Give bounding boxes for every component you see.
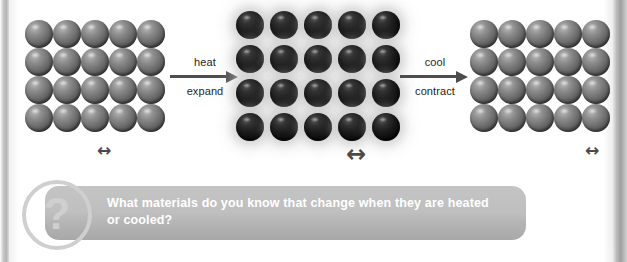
particle [25, 48, 53, 76]
particle [526, 104, 554, 132]
particle [236, 113, 264, 141]
particle [236, 45, 264, 73]
particle-diagram: ↔ heat expand ↔ cool contract ↔ [0, 0, 627, 176]
particle [554, 20, 582, 48]
particle [25, 104, 53, 132]
particle [137, 76, 165, 104]
particle-row [236, 45, 406, 79]
transition-cool-bottom-label: contract [398, 85, 472, 98]
particle [554, 48, 582, 76]
particle [25, 76, 53, 104]
transition-heat-top-label: heat [168, 56, 242, 69]
particle [498, 104, 526, 132]
particle [338, 11, 366, 39]
particle [304, 45, 332, 73]
particle [304, 113, 332, 141]
arrow-right-icon-cool [398, 71, 472, 83]
particle-row [470, 48, 610, 76]
particle-row [25, 104, 165, 132]
particle [270, 45, 298, 73]
question-mark-glyph: ? [26, 184, 88, 246]
particle [372, 11, 400, 39]
arrow-right-icon-heat [168, 71, 242, 83]
particle [270, 113, 298, 141]
particle [25, 20, 53, 48]
question-mark-icon: ? [22, 180, 92, 250]
particle [470, 76, 498, 104]
particle [338, 113, 366, 141]
particle-row [470, 104, 610, 132]
particle [526, 48, 554, 76]
particle-row [236, 79, 406, 113]
particle-row [25, 20, 165, 48]
particle-row [236, 11, 406, 45]
particle [304, 11, 332, 39]
particle [470, 48, 498, 76]
particle [582, 20, 610, 48]
particle [554, 76, 582, 104]
particle-row [470, 76, 610, 104]
particle-row [470, 20, 610, 48]
particle-row [25, 48, 165, 76]
particle [498, 20, 526, 48]
particle [498, 76, 526, 104]
particle [498, 48, 526, 76]
question-banner: What materials do you know that change w… [45, 186, 526, 240]
particle [137, 104, 165, 132]
particle [53, 76, 81, 104]
particle [554, 104, 582, 132]
particle [304, 79, 332, 107]
particle [109, 48, 137, 76]
particle [53, 104, 81, 132]
transition-cool: cool contract [398, 56, 472, 98]
particle [582, 104, 610, 132]
particle [582, 48, 610, 76]
particle [236, 11, 264, 39]
particle [81, 76, 109, 104]
particle [372, 113, 400, 141]
particle [470, 20, 498, 48]
particle [338, 79, 366, 107]
particle [526, 76, 554, 104]
particle [109, 76, 137, 104]
transition-heat-bottom-label: expand [168, 85, 242, 98]
question-banner-text: What materials do you know that change w… [107, 195, 497, 229]
transition-cool-top-label: cool [398, 56, 472, 69]
particle [270, 79, 298, 107]
particle [236, 79, 264, 107]
particle [372, 79, 400, 107]
particle-spacing-arrow-middle: ↔ [336, 142, 376, 166]
particle-spacing-arrow-left: ↔ [89, 142, 119, 159]
particle [470, 104, 498, 132]
particle [81, 104, 109, 132]
hot-particles-grid-middle [236, 11, 406, 147]
particle [526, 20, 554, 48]
particle [53, 20, 81, 48]
particle [270, 11, 298, 39]
particle [137, 20, 165, 48]
page-root: ↔ heat expand ↔ cool contract ↔ What mat… [0, 0, 627, 262]
particle [137, 48, 165, 76]
particle [81, 48, 109, 76]
particle [338, 45, 366, 73]
particle [372, 45, 400, 73]
particle-row [236, 113, 406, 147]
particle [582, 76, 610, 104]
particle-spacing-arrow-right: ↔ [577, 142, 607, 159]
particle [53, 48, 81, 76]
cool-particles-grid-left [25, 20, 165, 132]
particle [81, 20, 109, 48]
particle [109, 104, 137, 132]
particle [109, 20, 137, 48]
cool-particles-grid-right [470, 20, 610, 132]
transition-heat: heat expand [168, 56, 242, 98]
particle-row [25, 76, 165, 104]
